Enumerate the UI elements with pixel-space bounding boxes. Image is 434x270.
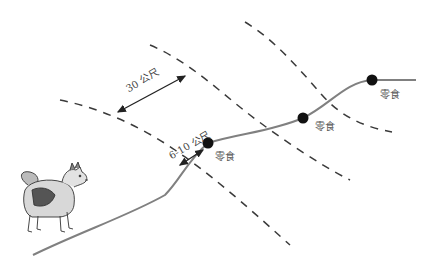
trail-diagram: 30 公尺 6-10 公尺 零食 零食 零食 — [0, 0, 434, 270]
snack-marker-2 — [298, 113, 309, 124]
snack-label-2: 零食 — [315, 118, 335, 133]
snack-label-1: 零食 — [215, 148, 235, 163]
scent-trail — [33, 80, 416, 255]
dog-illustration — [21, 162, 88, 232]
dashed-boundary-line-1 — [60, 100, 290, 245]
diagram-canvas — [0, 0, 434, 270]
snack-marker-3 — [367, 75, 378, 86]
snack-label-3: 零食 — [380, 86, 400, 101]
dashed-boundary-line-2 — [150, 45, 350, 180]
